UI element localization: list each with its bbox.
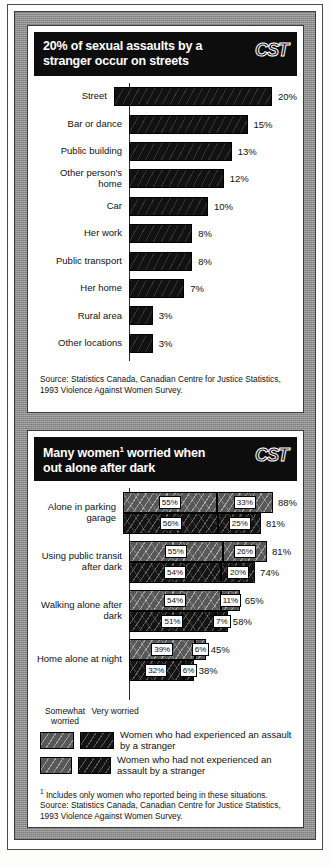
chart1-bar bbox=[129, 279, 184, 298]
chart2-bar-row: 56%25%81% bbox=[123, 513, 297, 534]
chart2-total-label: 38% bbox=[199, 665, 218, 676]
chart2-segment-value: 56% bbox=[160, 517, 182, 530]
legend-row-not-experienced: Women who had not experienced an assault… bbox=[40, 754, 295, 776]
chart1-bar-wrap: 15% bbox=[129, 110, 297, 137]
chart1-bar-row: Public building13% bbox=[34, 138, 297, 165]
chart2-category-label: Alone in parking garage bbox=[34, 502, 123, 523]
chart2-segment-value: 20% bbox=[227, 566, 249, 579]
chart1-category-label: Other locations bbox=[34, 338, 129, 349]
chart1-value-label: 8% bbox=[198, 256, 212, 267]
chart2-bar-pair: 55%33%88%56%25%81% bbox=[123, 488, 297, 537]
legend-label-not-experienced: Women who had not experienced an assault… bbox=[117, 754, 295, 776]
chart2-segment-value: 54% bbox=[164, 594, 186, 607]
chart1-value-label: 10% bbox=[214, 201, 233, 212]
chart2-title-bar: Many women1 worried when out alone after… bbox=[34, 437, 297, 481]
chart1-bar bbox=[129, 142, 232, 161]
chart2-segment-value: 51% bbox=[161, 615, 183, 628]
chart2-segment-value: 55% bbox=[165, 545, 187, 558]
chart2-footnote-text: Includes only women who reported being i… bbox=[44, 790, 268, 800]
chart2-segment-somewhat: 55% bbox=[129, 541, 223, 562]
chart2-bar-row: 54%11%65% bbox=[129, 590, 297, 611]
chart2-bar-row: 55%26%81% bbox=[129, 541, 297, 562]
chart2-group: Home alone at night39%6%45%32%6%38% bbox=[34, 635, 297, 684]
chart2-segment-very: 7% bbox=[216, 611, 228, 632]
chart2-total-label: 88% bbox=[278, 497, 297, 508]
chart2-segment-value: 55% bbox=[159, 496, 181, 509]
chart1-category-label: Other person's home bbox=[34, 168, 129, 189]
chart2-legend: Somewhat worried Very worried Women who … bbox=[40, 707, 295, 776]
chart1-value-label: 15% bbox=[254, 119, 273, 130]
chart1-bar-row: Bar or dance15% bbox=[34, 110, 297, 137]
chart1-bar-wrap: 10% bbox=[129, 193, 297, 220]
legend-swatch-experienced-somewhat bbox=[40, 732, 74, 749]
chart2-plot-area: Alone in parking garage55%33%88%56%25%81… bbox=[34, 488, 297, 700]
chart1-bar-row: Other locations3% bbox=[34, 330, 297, 357]
chart1-bar-row: Her home7% bbox=[34, 275, 297, 302]
chart1-bar-row: Rural area3% bbox=[34, 302, 297, 329]
chart2-group: Using public transit after dark55%26%81%… bbox=[34, 537, 297, 586]
legend-swatch-experienced-very bbox=[80, 732, 114, 749]
chart1-bar-row: Car10% bbox=[34, 193, 297, 220]
chart2-bar-row: 39%6%45% bbox=[129, 639, 297, 660]
chart1-source: Source: Statistics Canada, Canadian Cent… bbox=[40, 374, 293, 395]
chart2-stacked-bar: 56%25% bbox=[123, 513, 261, 534]
chart1-bar-row: Public transport8% bbox=[34, 247, 297, 274]
chart1-bar-wrap: 8% bbox=[129, 220, 297, 247]
chart2-stacked-bar: 54%11% bbox=[129, 590, 240, 611]
chart2-segment-value: 33% bbox=[234, 496, 256, 509]
chart2-segment-somewhat: 39% bbox=[129, 639, 195, 660]
chart1-category-label: Her home bbox=[34, 283, 129, 294]
chart1-title-bar: 20% of sexual assaults by a stranger occ… bbox=[34, 32, 297, 76]
chart2-footnote: 1 Includes only women who reported being… bbox=[40, 790, 268, 800]
chart2-segment-value: 26% bbox=[234, 545, 256, 558]
chart2-group: Walking alone after dark54%11%65%51%7%58… bbox=[34, 586, 297, 635]
chart2-segment-very: 26% bbox=[223, 541, 267, 562]
chart-panel-worry-after-dark: Many women1 worried when out alone after… bbox=[27, 430, 304, 828]
chart2-segment-somewhat: 56% bbox=[123, 513, 218, 534]
chart2-segment-very: 33% bbox=[217, 492, 273, 513]
chart1-bar-row: Other person's home12% bbox=[34, 165, 297, 192]
legend-segment-headers: Somewhat worried Very worried bbox=[40, 707, 295, 726]
chart1-bar-wrap: 20% bbox=[114, 83, 297, 110]
chart1-bar-wrap: 7% bbox=[129, 275, 297, 302]
chart2-segment-very: 25% bbox=[218, 513, 261, 534]
chart2-bar-pair: 54%11%65%51%7%58% bbox=[129, 586, 297, 635]
chart2-total-label: 58% bbox=[233, 616, 252, 627]
chart1-value-label: 7% bbox=[190, 283, 204, 294]
chart2-title-part1: Many women bbox=[43, 446, 120, 460]
chart2-group: Alone in parking garage55%33%88%56%25%81… bbox=[34, 488, 297, 537]
chart2-segment-somewhat: 32% bbox=[129, 660, 184, 681]
chart1-bar bbox=[129, 197, 208, 216]
chart1-value-label: 8% bbox=[198, 228, 212, 239]
chart1-category-label: Public transport bbox=[34, 256, 129, 267]
chart2-bar-row: 55%33%88% bbox=[123, 492, 297, 513]
chart2-segment-value: 32% bbox=[145, 664, 167, 677]
chart2-title-line2: out alone after dark bbox=[43, 461, 155, 475]
chart1-category-label: Car bbox=[34, 201, 129, 212]
chart1-bar-wrap: 3% bbox=[129, 330, 297, 357]
chart2-source: Source: Statistics Canada, Canadian Cent… bbox=[40, 800, 281, 821]
chart-panel-street-assaults: 20% of sexual assaults by a stranger occ… bbox=[27, 25, 304, 413]
chart2-total-label: 65% bbox=[245, 595, 264, 606]
chart1-bar-wrap: 8% bbox=[129, 247, 297, 274]
chart1-plot-area: Street20%Bar or dance15%Public building1… bbox=[34, 83, 297, 361]
chart2-total-label: 45% bbox=[211, 644, 230, 655]
chart2-segment-somewhat: 51% bbox=[129, 611, 216, 632]
chart2-segment-value: 39% bbox=[151, 643, 173, 656]
legend-label-experienced: Women who had experienced an assault by … bbox=[120, 729, 295, 751]
legend-swatch-not-experienced-very bbox=[78, 757, 110, 774]
chart1-bar-row: Her work8% bbox=[34, 220, 297, 247]
chart2-bar-row: 32%6%38% bbox=[129, 660, 297, 681]
chart2-source-block: 1 Includes only women who reported being… bbox=[40, 787, 293, 821]
chart2-segment-very: 20% bbox=[221, 562, 255, 583]
chart2-segment-very: 6% bbox=[195, 639, 205, 660]
chart1-bar bbox=[129, 334, 153, 353]
chart1-bar bbox=[129, 224, 192, 243]
chart2-bar-pair: 39%6%45%32%6%38% bbox=[129, 635, 297, 684]
chart1-value-label: 3% bbox=[159, 310, 173, 321]
chart2-segment-value: 54% bbox=[164, 566, 186, 579]
chart2-segment-value: 7% bbox=[213, 615, 231, 628]
scanned-page: 20% of sexual assaults by a stranger occ… bbox=[0, 0, 331, 866]
chart1-category-label: Bar or dance bbox=[34, 119, 129, 130]
chart1-category-label: Public building bbox=[34, 146, 129, 157]
